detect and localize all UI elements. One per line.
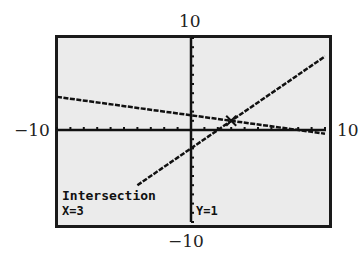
y-min-label: −10 [168,233,204,250]
x-min-label: −10 [14,122,50,139]
x-max-label: 10 [337,122,359,139]
intersection-title: Intersection [62,189,156,202]
y-max-label: 10 [179,13,201,30]
x-value: X=3 [62,205,84,217]
y-value: Y=1 [196,205,218,217]
